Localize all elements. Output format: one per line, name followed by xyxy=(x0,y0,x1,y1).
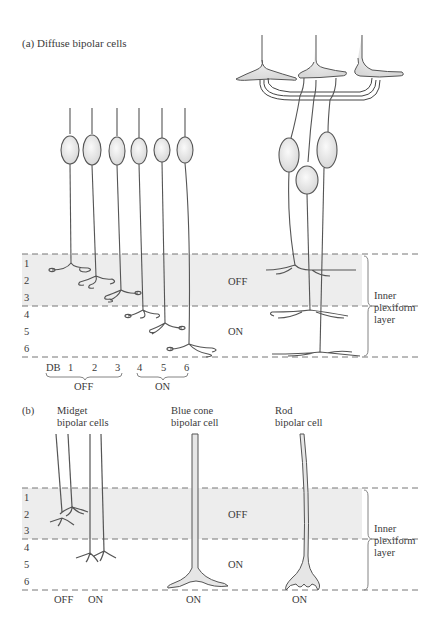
cell-group-braces xyxy=(46,373,188,380)
off-sublamina-band xyxy=(22,254,362,306)
layer-number-2: 2 xyxy=(24,275,29,287)
blue-cone-on-label: ON xyxy=(186,594,201,606)
layer-number-6: 6 xyxy=(24,343,29,355)
layer-number-b-1: 1 xyxy=(24,492,29,504)
panel-b-ipl xyxy=(22,488,418,590)
db6-cell xyxy=(167,108,216,357)
cell-label-3: 3 xyxy=(115,362,120,374)
midget-label-line1: Midget xyxy=(57,405,87,417)
layer-number-b-5: 5 xyxy=(24,559,29,571)
diffuse-bipolar-right-cells xyxy=(266,78,360,356)
cone-pedicle-1 xyxy=(236,35,297,80)
midget-off-label: OFF xyxy=(54,594,73,606)
layer-number-b-6: 6 xyxy=(24,576,29,588)
cone-pedicle-3 xyxy=(355,35,404,77)
cell-label-2: 2 xyxy=(92,362,97,374)
rod-label-line1: Rod xyxy=(275,405,293,417)
panel-b-tag: (b) xyxy=(22,405,34,417)
off-sublamina-label-b: OFF xyxy=(228,509,247,521)
on-sublamina-label: ON xyxy=(228,326,243,338)
midget-on-label: ON xyxy=(88,594,103,606)
cell-label-4: 4 xyxy=(137,362,142,374)
ipl-label-line2: plexiform xyxy=(374,302,415,314)
midget-label-line2: bipolar cells xyxy=(57,417,109,429)
blue-cone-label-line2: bipolar cell xyxy=(171,417,219,429)
rod-label-line2: bipolar cell xyxy=(275,417,323,429)
cell-label-1: 1 xyxy=(68,362,73,374)
layer-number-4: 4 xyxy=(24,309,29,321)
ipl-label-line3: layer xyxy=(374,314,395,326)
layer-number-b-2: 2 xyxy=(24,509,29,521)
ipl-label-b-line1: Inner xyxy=(374,523,396,535)
panel-a-ipl xyxy=(22,254,418,357)
ipl-label-b-line3: layer xyxy=(374,547,395,559)
diffuse-bipolar-cells xyxy=(49,108,216,357)
ipl-bracket-b xyxy=(364,490,372,590)
rod-on-label: ON xyxy=(292,594,307,606)
layer-number-b-4: 4 xyxy=(24,542,29,554)
on-sublamina-label-b: ON xyxy=(228,559,243,571)
ipl-label-line1: Inner xyxy=(374,290,396,302)
cell-label-6: 6 xyxy=(184,362,189,374)
layer-number-b-3: 3 xyxy=(24,525,29,537)
group-off-label: OFF xyxy=(74,381,93,393)
cone-pedicles xyxy=(236,35,403,80)
cone-dendrite-arcs xyxy=(260,78,380,100)
group-on-label: ON xyxy=(155,381,170,393)
off-sublamina-label: OFF xyxy=(228,276,247,288)
layer-number-1: 1 xyxy=(24,258,29,270)
panel-a-title: (a) Diffuse bipolar cells xyxy=(22,37,127,49)
on-brace xyxy=(137,373,188,380)
blue-cone-label-line1: Blue cone xyxy=(171,405,213,417)
cell-label-db: DB xyxy=(46,362,61,374)
cell-label-5: 5 xyxy=(161,362,166,374)
db1-cell xyxy=(49,108,91,272)
ipl-label-b-line2: plexiform xyxy=(374,535,415,547)
cone-pedicle-2 xyxy=(298,35,346,78)
layer-number-3: 3 xyxy=(24,292,29,304)
off-brace xyxy=(46,373,122,380)
layer-number-5: 5 xyxy=(24,326,29,338)
